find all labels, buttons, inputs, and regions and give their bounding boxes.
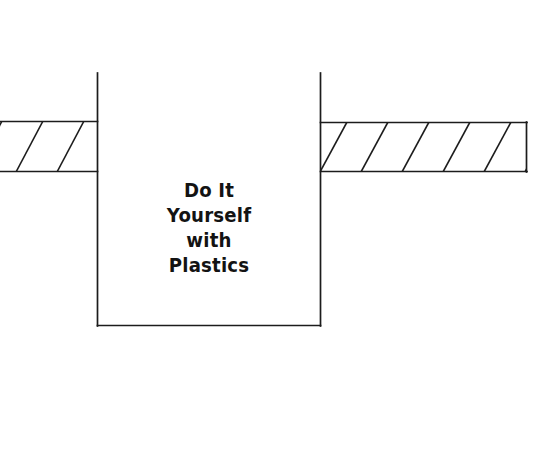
- hatch-line: [443, 122, 470, 172]
- hatch-line: [361, 122, 388, 172]
- page-title: Do It Yourself with Plastics: [97, 178, 321, 278]
- hatch-line: [0, 121, 2, 172]
- left-hatched-bar: [0, 121, 125, 172]
- hatch-line: [484, 122, 511, 172]
- title-line-3: with: [105, 228, 313, 253]
- hatch-line: [320, 122, 347, 172]
- hatch-line: [402, 122, 429, 172]
- title-line-4: Plastics: [105, 253, 313, 278]
- title-line-1: Do It: [105, 178, 313, 203]
- hatch-line: [525, 122, 552, 172]
- right-bar-hatching: [320, 122, 552, 172]
- figure-canvas: Do It Yourself with Plastics: [0, 0, 555, 469]
- hatch-line: [98, 121, 125, 172]
- hatch-line: [16, 121, 43, 172]
- hatch-line: [57, 121, 84, 172]
- title-line-2: Yourself: [105, 203, 313, 228]
- right-hatched-bar: [320, 122, 552, 172]
- left-bar-hatching: [0, 121, 125, 172]
